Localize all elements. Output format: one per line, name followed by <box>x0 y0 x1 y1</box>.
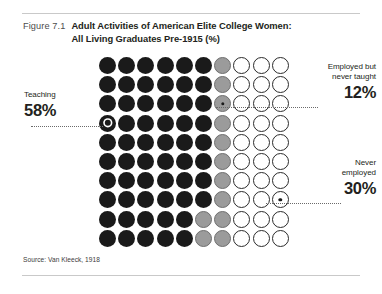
dot-cell-gray <box>214 95 231 112</box>
callout-teaching: Teaching 58% <box>24 90 98 120</box>
dot-matrix-row <box>99 211 291 230</box>
dot-cell-white <box>272 191 289 208</box>
leader-anchor-dot-icon <box>221 102 224 105</box>
leader-line-never <box>266 203 341 204</box>
dot-cell-black <box>99 134 116 151</box>
dot-cell-black <box>176 172 193 189</box>
dot-cell-black <box>99 76 116 93</box>
dot-cell-black <box>157 153 174 170</box>
figure-number: Figure 7.1 <box>23 20 71 33</box>
dot-cell-black <box>137 172 154 189</box>
dot-cell-black <box>137 134 154 151</box>
dot-cell-white <box>233 172 250 189</box>
dot-cell-black <box>195 76 212 93</box>
dot-cell-black <box>99 230 116 247</box>
dot-cell-black <box>137 76 154 93</box>
dot-cell-white <box>272 153 289 170</box>
dot-cell-black <box>176 57 193 74</box>
dot-cell-gray <box>214 172 231 189</box>
dot-cell-black <box>176 153 193 170</box>
dot-cell-white <box>233 57 250 74</box>
dot-cell-white <box>253 153 270 170</box>
dot-cell-white <box>272 57 289 74</box>
callout-employed-caption-line-1: Employed but <box>300 62 376 72</box>
dot-cell-white <box>233 115 250 132</box>
dot-cell-black <box>176 191 193 208</box>
dot-cell-white <box>253 57 270 74</box>
callout-employed-caption-line-2: never taught <box>300 72 376 82</box>
callout-employed-value: 12% <box>300 83 376 102</box>
dot-cell-gray <box>195 211 212 228</box>
dot-cell-gray <box>195 230 212 247</box>
figure-title-block: Figure 7.1 Adult Activities of American … <box>23 20 353 46</box>
dot-cell-black <box>99 211 116 228</box>
dot-cell-gray <box>214 76 231 93</box>
dot-cell-black <box>137 95 154 112</box>
dot-cell-white <box>253 76 270 93</box>
dot-cell-black <box>195 172 212 189</box>
dot-matrix-row <box>99 115 291 134</box>
dot-cell-white <box>233 191 250 208</box>
dot-cell-black <box>176 95 193 112</box>
dot-cell-black <box>99 172 116 189</box>
dot-cell-black <box>176 134 193 151</box>
dot-cell-black <box>118 134 135 151</box>
dot-cell-black <box>118 230 135 247</box>
dot-cell-black <box>195 95 212 112</box>
callout-never-employed: Never employed 30% <box>300 158 376 198</box>
dot-matrix-row <box>99 76 291 95</box>
dot-cell-black <box>137 57 154 74</box>
dot-cell-black <box>137 153 154 170</box>
dot-cell-black <box>157 57 174 74</box>
dot-cell-white <box>233 230 250 247</box>
dot-cell-black <box>99 57 116 74</box>
dot-cell-black <box>157 211 174 228</box>
dot-cell-black <box>137 211 154 228</box>
dot-cell-white <box>233 211 250 228</box>
leader-line-employed <box>216 107 318 108</box>
dot-cell-black <box>118 57 135 74</box>
dot-cell-black <box>157 76 174 93</box>
title-line-2: All Living Graduates Pre-1915 (%) <box>71 33 291 46</box>
dot-cell-black <box>118 115 135 132</box>
dot-cell-black <box>157 230 174 247</box>
dot-cell-black <box>176 76 193 93</box>
dot-cell-black <box>176 211 193 228</box>
dot-cell-white <box>253 95 270 112</box>
dot-cell-white <box>272 76 289 93</box>
callout-teaching-caption: Teaching <box>24 90 98 100</box>
dot-cell-black <box>137 115 154 132</box>
dot-cell-gray <box>214 115 231 132</box>
dot-cell-gray <box>214 230 231 247</box>
callout-never-caption-line-1: Never <box>300 158 376 168</box>
dot-cell-black <box>157 172 174 189</box>
dot-cell-gray <box>214 153 231 170</box>
dot-cell-black <box>157 134 174 151</box>
dot-cell-white <box>253 191 270 208</box>
dot-cell-black <box>118 76 135 93</box>
dot-matrix-row <box>99 191 291 210</box>
dot-cell-black <box>99 115 116 132</box>
dot-cell-black <box>118 172 135 189</box>
dot-cell-black <box>118 211 135 228</box>
callout-teaching-value: 58% <box>24 101 98 120</box>
dot-cell-white <box>233 153 250 170</box>
dot-matrix-row <box>99 153 291 172</box>
dot-cell-white <box>272 95 289 112</box>
bottom-divider <box>22 275 360 276</box>
dot-cell-gray <box>214 134 231 151</box>
top-divider <box>22 13 360 14</box>
dot-matrix-row <box>99 172 291 191</box>
dot-cell-black <box>195 153 212 170</box>
dot-cell-black <box>195 57 212 74</box>
leader-line-teaching <box>31 126 103 127</box>
dot-cell-white <box>253 134 270 151</box>
dot-cell-white <box>233 134 250 151</box>
dot-cell-black <box>99 191 116 208</box>
dot-cell-black <box>118 191 135 208</box>
dot-cell-gray <box>214 191 231 208</box>
dot-cell-black <box>118 95 135 112</box>
dot-cell-white <box>272 211 289 228</box>
title-line-1: Adult Activities of American Elite Colle… <box>71 20 291 33</box>
dot-cell-white <box>253 115 270 132</box>
